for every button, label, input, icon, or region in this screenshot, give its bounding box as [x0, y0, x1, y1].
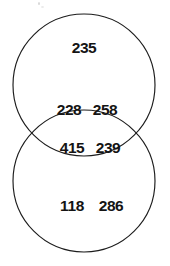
venn-value-intersection-4: 239: [96, 140, 121, 156]
venn-circle-top: [13, 14, 155, 156]
scan-artifact-speck: [41, 6, 44, 8]
venn-value-intersection-3: 415: [60, 140, 85, 156]
venn-value-intersection-2: 258: [93, 102, 118, 118]
venn-value-top-only-1: 235: [72, 40, 97, 56]
venn-value-bottom-only-1: 118: [60, 198, 84, 214]
venn-circle-bottom: [13, 110, 155, 252]
venn-value-intersection-1: 228: [57, 102, 82, 118]
scan-artifact-speck: [38, 2, 40, 5]
venn-diagram-figure: 235 228 258 415 239 118 286: [0, 0, 170, 266]
venn-value-bottom-only-2: 286: [99, 198, 124, 214]
